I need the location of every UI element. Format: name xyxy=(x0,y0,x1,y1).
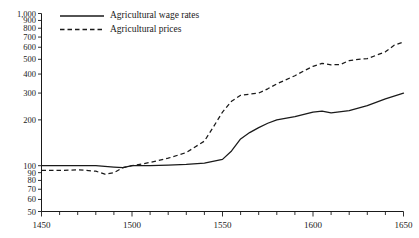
chart-legend: Agricultural wage ratesAgricultural pric… xyxy=(60,10,199,34)
y-tick-label: 400 xyxy=(23,69,36,79)
x-tick-label: 1600 xyxy=(304,220,323,230)
y-tick-label: 1,000 xyxy=(17,9,36,19)
y-tick-label: 500 xyxy=(23,54,36,64)
x-tick-label: 1500 xyxy=(123,220,142,230)
y-axis: 50607080901002003004005006007008009001,0… xyxy=(17,9,42,217)
y-tick-label: 100 xyxy=(23,161,36,171)
legend-label: Agricultural wage rates xyxy=(110,10,199,20)
y-tick-label: 300 xyxy=(23,88,36,98)
legend-label: Agricultural prices xyxy=(110,24,182,34)
y-tick-label: 50 xyxy=(28,207,37,217)
x-tick-label: 1450 xyxy=(33,220,52,230)
x-tick-label: 1650 xyxy=(395,220,414,230)
y-tick-label: 600 xyxy=(23,42,36,52)
data-series-group xyxy=(42,42,404,174)
y-tick-label: 60 xyxy=(28,194,37,204)
chart-container: 50607080901002003004005006007008009001,0… xyxy=(0,0,419,238)
x-axis: 14501500155016001650 xyxy=(33,212,414,230)
series-line-agricultural-prices xyxy=(42,42,404,174)
y-tick-label: 200 xyxy=(23,115,36,125)
y-tick-label: 700 xyxy=(23,32,36,42)
y-tick-label: 70 xyxy=(28,184,37,194)
series-line-agricultural-wage-rates xyxy=(42,93,404,168)
agricultural-wages-prices-chart: 50607080901002003004005006007008009001,0… xyxy=(0,0,419,238)
x-tick-label: 1550 xyxy=(214,220,233,230)
